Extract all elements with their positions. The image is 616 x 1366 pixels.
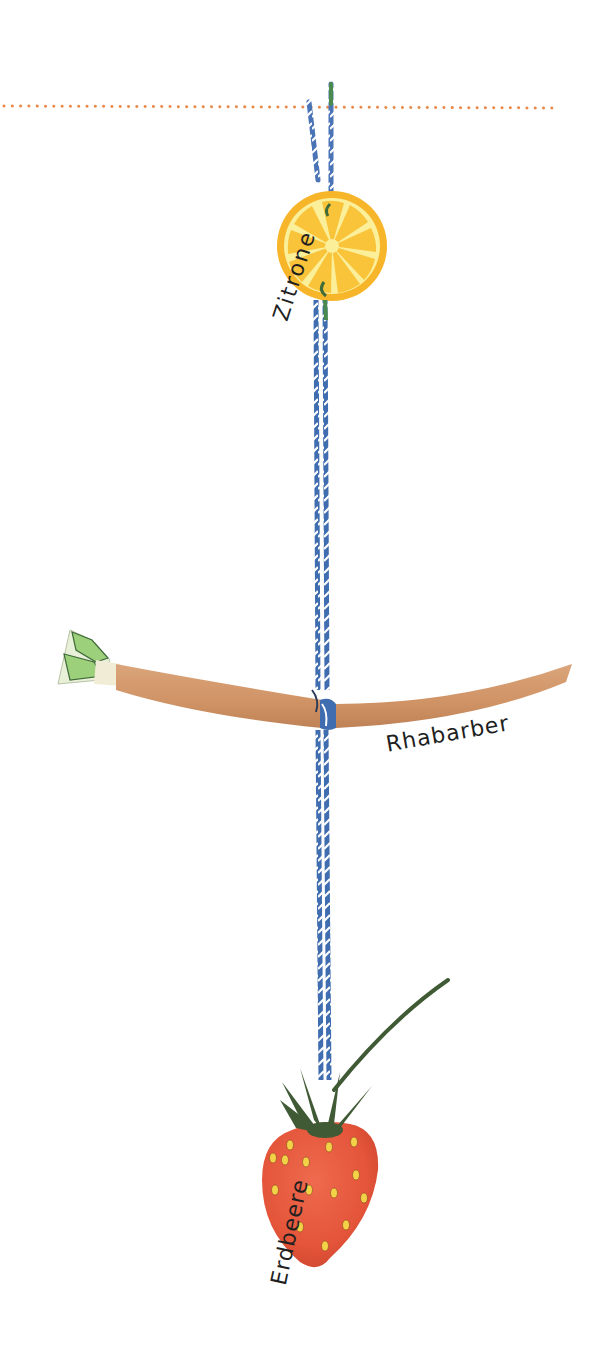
string-bottom [318,730,329,1080]
dotted-line [4,106,556,108]
string-middle [316,300,327,690]
illustration-canvas: Zitrone Rhabarber Erdbeere [0,0,616,1366]
string-top [309,84,331,205]
